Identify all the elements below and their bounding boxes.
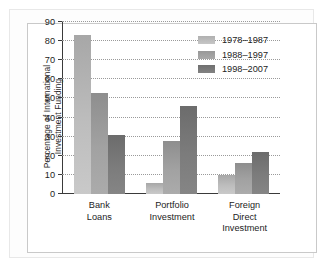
bar-group bbox=[146, 22, 197, 194]
x-axis-label-line: Investment bbox=[136, 212, 208, 224]
y-axis-tick-label: 70 bbox=[45, 55, 55, 65]
bar bbox=[163, 141, 180, 195]
y-axis-tick bbox=[58, 117, 62, 118]
y-axis-tick-label: 30 bbox=[45, 132, 55, 142]
legend-swatch bbox=[198, 51, 215, 59]
y-axis-tick bbox=[58, 59, 62, 60]
legend-item: 1998–2007 bbox=[198, 64, 268, 74]
y-axis-tick bbox=[58, 193, 62, 194]
y-axis-tick bbox=[58, 155, 62, 156]
y-axis-tick-label: 50 bbox=[45, 93, 55, 103]
x-axis-label-line: Foreign bbox=[209, 200, 281, 212]
legend-label: 1978–1987 bbox=[222, 35, 268, 45]
y-axis-tick-label: 10 bbox=[45, 170, 55, 180]
legend-label: 1998–2007 bbox=[222, 64, 268, 74]
y-axis-tick bbox=[58, 40, 62, 41]
figure-plate: Percentage of International Investment F… bbox=[10, 10, 313, 257]
x-axis-label-line: Bank bbox=[63, 200, 135, 212]
legend-item: 1978–1987 bbox=[198, 35, 268, 45]
y-axis-tick bbox=[58, 136, 62, 137]
y-axis-tick-label: 20 bbox=[45, 151, 55, 161]
x-axis-label: BankLoans bbox=[63, 200, 135, 235]
x-axis-label-line: Direct bbox=[209, 212, 281, 224]
legend-item: 1988–1997 bbox=[198, 50, 268, 60]
y-axis-tick bbox=[58, 21, 62, 22]
bar bbox=[146, 183, 163, 194]
bar bbox=[218, 175, 235, 194]
x-axis-label-line: Loans bbox=[63, 212, 135, 224]
bar bbox=[74, 35, 91, 194]
y-axis-tick-label: 90 bbox=[45, 17, 55, 27]
y-axis-tick-label: 80 bbox=[45, 36, 55, 46]
y-axis-tick-label: 40 bbox=[45, 113, 55, 123]
bar bbox=[180, 106, 197, 194]
chart-figure: Percentage of International Investment F… bbox=[0, 0, 323, 267]
y-axis-tick bbox=[58, 78, 62, 79]
x-axis-label-line: Portfolio bbox=[136, 200, 208, 212]
x-axis-label-line: Investment bbox=[209, 223, 281, 235]
legend-swatch bbox=[198, 65, 215, 73]
y-axis-tick-label: 60 bbox=[45, 74, 55, 84]
y-axis-tick bbox=[58, 97, 62, 98]
bar bbox=[252, 152, 269, 194]
y-axis-tick bbox=[58, 174, 62, 175]
bar bbox=[91, 93, 108, 194]
legend-swatch bbox=[198, 36, 215, 44]
x-axis-label: PortfolioInvestment bbox=[136, 200, 208, 235]
legend: 1978–19871988–19971998–2007 bbox=[198, 35, 268, 74]
bar bbox=[235, 163, 252, 194]
legend-label: 1988–1997 bbox=[222, 50, 268, 60]
bar bbox=[108, 135, 125, 194]
bar-group bbox=[74, 22, 125, 194]
x-axis-label: ForeignDirectInvestment bbox=[209, 200, 281, 235]
x-axis-tick-labels: BankLoansPortfolioInvestmentForeignDirec… bbox=[63, 200, 281, 235]
y-axis-tick-label: 0 bbox=[50, 189, 55, 199]
